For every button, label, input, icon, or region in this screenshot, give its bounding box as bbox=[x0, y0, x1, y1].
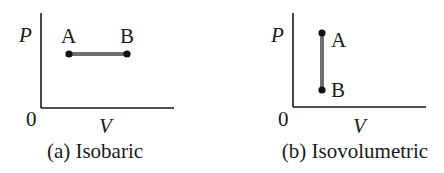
y-axis-label: P bbox=[270, 23, 284, 47]
point-a-label: A bbox=[331, 28, 347, 52]
y-axis-label: P bbox=[18, 23, 32, 47]
point-b-label: B bbox=[120, 24, 134, 48]
point-a-label: A bbox=[61, 24, 77, 48]
origin-label: 0 bbox=[26, 107, 37, 131]
point-b bbox=[318, 86, 325, 93]
caption: (a) Isobaric bbox=[47, 139, 143, 163]
x-axis-label: V bbox=[99, 114, 114, 138]
pv-diagrams: P A B 0 V (a) Isobaric P A B 0 V (b) Iso… bbox=[0, 0, 444, 173]
origin-label: 0 bbox=[278, 107, 289, 131]
panel-isobaric: P A B 0 V (a) Isobaric bbox=[18, 13, 174, 163]
point-b bbox=[123, 50, 130, 57]
panel-isovolumetric: P A B 0 V (b) Isovolumetric bbox=[270, 13, 428, 163]
point-b-label: B bbox=[331, 78, 345, 102]
point-a bbox=[318, 29, 325, 36]
caption: (b) Isovolumetric bbox=[282, 139, 428, 163]
x-axis-label: V bbox=[353, 114, 368, 138]
point-a bbox=[65, 50, 72, 57]
